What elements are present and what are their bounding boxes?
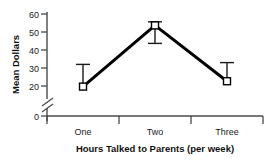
y-axis-title: Mean Dollars [10,35,21,94]
x-category-label-three: Three [215,127,239,137]
x-category-label-two: Two [147,127,164,137]
chart-container: 60 50 40 30 20 0 Mean Dollars One Two Th… [0,0,276,161]
data-point-marker-two [152,22,159,29]
y-tick-label-60: 60 [29,10,39,20]
y-tick-label-40: 40 [29,46,39,56]
y-tick-label-0: 0 [34,112,39,122]
y-tick-label-30: 30 [29,64,39,74]
x-axis-title: Hours Talked to Parents (per week) [76,143,234,154]
y-tick-label-20: 20 [29,82,39,92]
data-point-marker-three [224,78,231,85]
line-chart: 60 50 40 30 20 0 Mean Dollars One Two Th… [0,0,276,161]
x-category-label-one: One [74,127,91,137]
y-tick-label-50: 50 [29,28,39,38]
data-point-marker-one [80,83,87,90]
